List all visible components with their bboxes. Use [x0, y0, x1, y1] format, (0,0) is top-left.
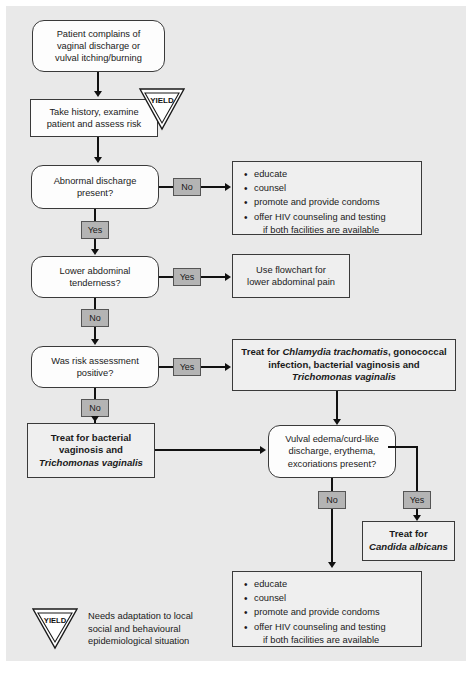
label-lower-no: No [81, 309, 109, 327]
label-lower-no-text: No [89, 313, 101, 323]
arrowhead-lower-no [91, 339, 99, 345]
node-use-flowchart-line1: Use flowchart for [256, 265, 326, 275]
node-vulval-line2: discharge, erythema, [289, 446, 376, 456]
node-vulval-edema: Vulval edema/curd-like discharge, erythe… [268, 425, 396, 478]
node-abnormal-line1: Abnormal discharge [54, 176, 137, 186]
node-use-flowchart: Use flowchart for lower abdominal pain [232, 254, 350, 298]
label-abnormal-no: No [173, 178, 201, 196]
connector-lower-yes-left [159, 276, 173, 278]
bullet-item-continuation: if both facilities are available [254, 224, 413, 237]
connector-risk-yes-left [159, 366, 173, 368]
connector-bv-vulval [155, 449, 260, 451]
bullet-item: offer HIV counseling and testing if both… [254, 621, 413, 647]
yield-icon-legend-text: YIELD [44, 616, 67, 625]
legend-line2: social and behavioural [88, 624, 181, 634]
label-abnormal-yes: Yes [81, 221, 109, 239]
node-treat-candida-line1: Treat for [389, 528, 427, 539]
connector-lower-yes-right [201, 276, 225, 278]
bullet-item: promote and provide condoms [254, 606, 413, 619]
arrowhead-vulval-no [328, 562, 336, 568]
arrowhead-abnormal-no [225, 183, 231, 191]
connector-risk-yes-right [201, 366, 225, 368]
node-treat-bv-species: Trichomonas vaginalis [39, 457, 143, 468]
bullet-item: counsel [254, 182, 413, 195]
bullet-item-continuation: if both facilities are available [254, 634, 413, 647]
bullets-top-list: educate counsel promote and provide cond… [243, 168, 413, 237]
label-vulval-no-text: No [326, 495, 338, 505]
bullets-bottom-list: educate counsel promote and provide cond… [243, 578, 413, 647]
node-use-flowchart-line2: lower abdominal pain [247, 277, 335, 287]
arrowhead-risk-no [91, 416, 99, 422]
node-lower-line2: tenderness? [69, 278, 120, 288]
connector-abnormal-no-left [159, 186, 173, 188]
node-treat-candida: Treat for Candida albicans [362, 521, 455, 561]
connector-start-history [97, 72, 99, 91]
connector-lower-no-top [94, 298, 96, 309]
bullet-item: offer HIV counseling and testing if both… [254, 211, 413, 237]
connector-risk-no-top [94, 388, 96, 399]
node-treat-bv-line1: Treat for bacterial [51, 432, 132, 443]
box-bullets-top: educate counsel promote and provide cond… [232, 161, 422, 235]
node-treat-chlamydia: Treat for Chlamydia trachomatis, gonococ… [232, 339, 456, 391]
label-vulval-yes-text: Yes [410, 495, 425, 505]
node-start-line2: vaginal discharge or [57, 41, 140, 51]
connector-history-abnormal [97, 137, 99, 157]
node-risk-assessment: Was risk assessment positive? [31, 346, 159, 388]
bullet-item: promote and provide condoms [254, 196, 413, 209]
legend-line3: epidemiological situation [88, 636, 189, 646]
node-start-line3: vulval itching/burning [55, 53, 142, 63]
label-lower-yes-text: Yes [180, 272, 195, 282]
connector-vulval-no-bottom [331, 509, 333, 562]
legend-line1: Needs adaptation to local [88, 611, 193, 621]
node-treat-chlamydia-prefix: Treat for [241, 346, 282, 357]
node-treat-chlamydia-species1: Chlamydia trachomatis [282, 346, 388, 357]
node-treat-bacterial-vaginosis: Treat for bacterial vaginosis and Tricho… [27, 423, 155, 478]
node-history-line1: Take history, examine [49, 107, 138, 117]
flowchart-canvas: Patient complains of vaginal discharge o… [6, 6, 466, 661]
arrowhead-lower-yes [225, 273, 231, 281]
bullet-item: educate [254, 168, 413, 181]
node-lower-line1: Lower abdominal [60, 266, 131, 276]
node-vulval-line3: excoriations present? [288, 459, 376, 469]
connector-abnormal-yes-bottom [94, 239, 96, 249]
arrowhead-start-history [94, 91, 102, 97]
node-treat-chlamydia-species2: Trichomonas vaginalis [292, 371, 396, 382]
legend-text: Needs adaptation to local social and beh… [88, 610, 228, 648]
arrowhead-bv-vulval [260, 446, 266, 454]
label-abnormal-yes-text: Yes [88, 225, 103, 235]
label-vulval-yes: Yes [403, 491, 431, 509]
label-risk-no-text: No [89, 403, 101, 413]
bullet-item: educate [254, 578, 413, 591]
label-lower-yes: Yes [173, 268, 201, 286]
bullet-item: counsel [254, 592, 413, 605]
node-history-line2: patient and assess risk [47, 119, 142, 129]
node-treat-candida-species: Candida albicans [369, 541, 448, 552]
arrowhead-abnormal-yes [91, 249, 99, 255]
node-risk-line1: Was risk assessment [51, 356, 138, 366]
yield-icon-top: YIELD [137, 85, 187, 133]
node-abnormal-line2: present? [77, 188, 113, 198]
connector-vulval-no-top [331, 478, 333, 491]
node-treat-bv-line2: vaginosis and [59, 444, 123, 455]
node-risk-line2: positive? [77, 368, 114, 378]
label-risk-yes: Yes [173, 358, 201, 376]
arrowhead-history-abnormal [94, 157, 102, 163]
yield-icon-legend: YIELD [30, 606, 80, 652]
label-vulval-no: No [318, 491, 346, 509]
yield-icon-top-text: YIELD [150, 96, 174, 105]
node-vulval-line1: Vulval edema/curd-like [285, 434, 379, 444]
node-start: Patient complains of vaginal discharge o… [32, 20, 165, 72]
label-risk-no: No [81, 399, 109, 417]
node-lower-abdominal: Lower abdominal tenderness? [31, 256, 159, 298]
arrowhead-risk-yes [225, 363, 231, 371]
node-start-line1: Patient complains of [57, 29, 141, 39]
connector-chlamydia-vulval [336, 391, 338, 419]
connector-vulval-yes-horizontal [388, 446, 418, 448]
label-abnormal-no-text: No [181, 182, 193, 192]
box-bullets-bottom: educate counsel promote and provide cond… [232, 571, 422, 647]
connector-abnormal-yes-top [94, 209, 96, 221]
connector-abnormal-no-right [201, 186, 225, 188]
label-risk-yes-text: Yes [180, 362, 195, 372]
connector-lower-no-bottom [94, 327, 96, 339]
node-abnormal-discharge: Abnormal discharge present? [31, 165, 159, 209]
